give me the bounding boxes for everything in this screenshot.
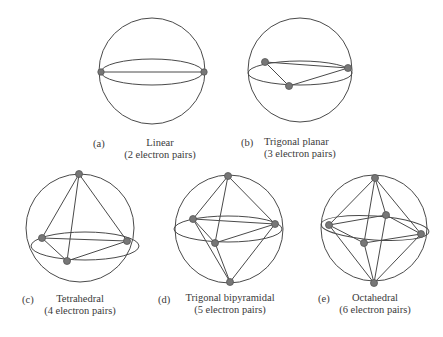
panel-letter-d: (d) xyxy=(158,294,170,305)
caption-trigonal-planar: Trigonal planar (3 electron pairs) xyxy=(264,136,336,160)
electron-pairs: (5 electron pairs) xyxy=(178,304,282,316)
panel-letter-b: (b) xyxy=(241,137,253,148)
geometry-name: Linear xyxy=(115,137,205,149)
electron-pair-dot xyxy=(98,69,104,75)
electron-pair-dot xyxy=(418,231,425,238)
electron-pair-dot xyxy=(272,221,279,228)
panel-letter-a: (a) xyxy=(93,138,105,149)
electron-pairs: (3 electron pairs) xyxy=(264,148,336,160)
geometry-name: Octahedral xyxy=(335,292,415,304)
sphere-tetrahedral xyxy=(26,174,139,282)
geometry-diagram xyxy=(0,0,443,337)
electron-pair-dot xyxy=(372,175,379,182)
electron-pair-dot xyxy=(39,235,46,242)
geometry-name: Trigonal planar xyxy=(264,136,336,148)
geometry-name: Tetrahedral xyxy=(40,293,120,305)
electron-pair-dot xyxy=(361,240,368,247)
electron-pair-dot xyxy=(212,240,219,247)
caption-tetrahedral: Tetrahedral (4 electron pairs) xyxy=(40,293,120,317)
electron-pair-dot xyxy=(371,280,378,287)
sphere-linear xyxy=(99,18,205,124)
panel-letter-e: (e) xyxy=(318,293,330,304)
electron-pair-dot xyxy=(345,65,352,72)
electron-pair-dot xyxy=(262,59,269,66)
electron-pairs: (6 electron pairs) xyxy=(335,304,415,316)
electron-pair-dot xyxy=(76,171,83,178)
caption-octahedral: Octahedral (6 electron pairs) xyxy=(335,292,415,316)
panel-letter-c: (c) xyxy=(22,294,34,305)
caption-linear: Linear (2 electron pairs) xyxy=(115,137,205,161)
electron-pair-dot xyxy=(326,222,333,229)
electron-pair-dot xyxy=(227,279,234,286)
electron-pairs: (4 electron pairs) xyxy=(40,305,120,317)
electron-pair-dot xyxy=(286,83,293,90)
sphere-trigonal-planar xyxy=(248,18,352,122)
electron-pair-dot xyxy=(383,212,390,219)
electron-pair-dot xyxy=(124,238,131,245)
electron-pairs: (2 electron pairs) xyxy=(115,149,205,161)
electron-pair-dot xyxy=(190,216,197,223)
electron-pair-dot xyxy=(64,258,71,265)
sphere-trigonal-bipyramidal xyxy=(174,175,283,283)
sphere-octahedral xyxy=(320,175,429,283)
caption-trigonal-bipyramidal: Trigonal bipyramidal (5 electron pairs) xyxy=(178,292,282,316)
geometry-name: Trigonal bipyramidal xyxy=(178,292,282,304)
electron-pair-dot xyxy=(201,69,207,75)
electron-pair-dot xyxy=(225,173,232,180)
